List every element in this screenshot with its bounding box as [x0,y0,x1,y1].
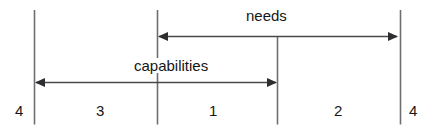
segment-label-center: 1 [209,103,217,118]
segment-label-far-right: 4 [409,103,417,118]
diagram-canvas: needs capabilities 4 3 1 2 4 [0,0,432,131]
segment-label-far-left: 4 [15,103,23,118]
segment-label-left: 3 [96,103,104,118]
capabilities-arrow-label: capabilities [131,58,211,73]
segment-label-right: 2 [334,103,342,118]
needs-arrow-label: needs [243,8,290,23]
divider-lines [35,10,401,125]
